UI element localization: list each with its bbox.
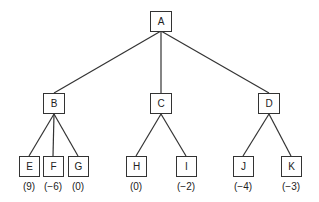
node-d: D <box>258 93 280 114</box>
node-g: G <box>68 156 89 177</box>
node-a: A <box>150 11 172 32</box>
node-f: F <box>43 156 64 177</box>
node-b: B <box>43 93 65 114</box>
value-j: (−4) <box>228 181 258 192</box>
value-h: (0) <box>121 181 151 192</box>
node-i: I <box>176 156 197 177</box>
node-j: J <box>233 156 254 177</box>
node-k: K <box>281 156 302 177</box>
node-c: C <box>150 93 172 114</box>
value-g: (0) <box>63 181 93 192</box>
node-h: H <box>126 156 147 177</box>
value-i: (−2) <box>171 181 201 192</box>
value-k: (−3) <box>276 181 306 192</box>
node-e: E <box>19 156 40 177</box>
